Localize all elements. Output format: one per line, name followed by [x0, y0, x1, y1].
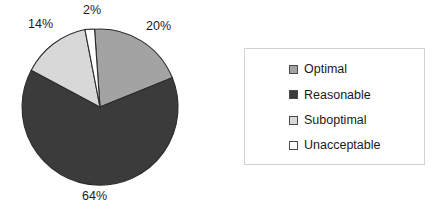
pie-chart-figure: 20% 2% 14% 64% Optimal Reasonable Subopt…: [0, 0, 448, 211]
legend-label-optimal: Optimal: [304, 63, 347, 76]
legend-label-unacceptable: Unacceptable: [304, 139, 380, 152]
legend-item-suboptimal[interactable]: Suboptimal: [289, 111, 424, 129]
pie-svg: [0, 0, 230, 211]
pie-value-label-unacceptable: 2%: [83, 4, 101, 17]
legend-swatch-unacceptable: [289, 141, 298, 150]
legend-swatch-suboptimal: [289, 116, 298, 125]
legend-item-unacceptable[interactable]: Unacceptable: [289, 136, 424, 154]
legend-entry-list: Optimal Reasonable Suboptimal Unacceptab…: [289, 57, 424, 158]
legend-item-reasonable[interactable]: Reasonable: [289, 86, 424, 104]
chart-legend: Optimal Reasonable Suboptimal Unacceptab…: [244, 48, 425, 165]
legend-swatch-optimal: [289, 65, 298, 74]
legend-swatch-reasonable: [289, 90, 298, 99]
legend-label-suboptimal: Suboptimal: [304, 114, 367, 127]
pie-plot-area: 20% 2% 14% 64%: [0, 0, 230, 211]
pie-value-label-optimal: 20%: [146, 20, 171, 33]
legend-item-optimal[interactable]: Optimal: [289, 61, 424, 79]
legend-label-reasonable: Reasonable: [304, 89, 371, 102]
pie-value-label-suboptimal: 14%: [28, 18, 53, 31]
pie-value-label-reasonable: 64%: [82, 190, 107, 203]
